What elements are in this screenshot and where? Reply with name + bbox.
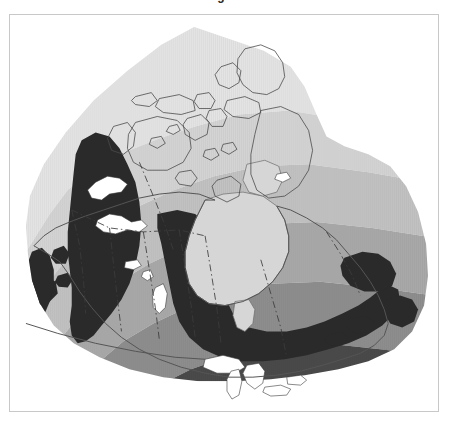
figure-caption: Figure <box>0 0 450 3</box>
map-canvas <box>10 15 438 411</box>
dark-zone-bc-island-a <box>13 264 28 280</box>
figure-frame <box>9 14 439 412</box>
canada-map <box>10 15 438 411</box>
lake-ontario <box>287 375 307 385</box>
lake-erie <box>263 385 291 396</box>
dark-zone-bc-island-b <box>15 297 32 316</box>
